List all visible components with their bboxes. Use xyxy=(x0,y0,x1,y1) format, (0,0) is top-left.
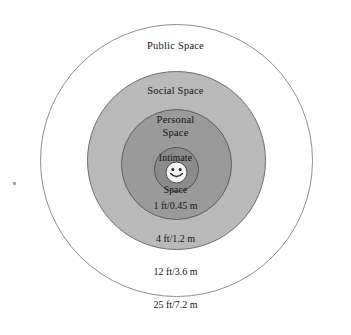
zone-label-personal-second-line: Space xyxy=(0,127,351,140)
smiley-face-icon xyxy=(165,161,188,184)
zone-label-personal: Personal xyxy=(0,114,351,127)
distance-label-public: 25 ft/7.2 m xyxy=(0,299,351,311)
zone-label-public: Public Space xyxy=(0,40,351,53)
zone-label-social: Social Space xyxy=(0,85,351,98)
scan-artifact-speck xyxy=(13,182,16,185)
distance-label-intimate: 1 ft/0.45 m xyxy=(0,200,351,212)
proxemics-diagram: Public Space Social Space Personal Space… xyxy=(0,0,351,335)
zone-label-intimate-second-line: Space xyxy=(0,184,351,197)
distance-label-social: 12 ft/3.6 m xyxy=(0,266,351,278)
distance-label-personal: 4 ft/1.2 m xyxy=(0,233,351,245)
